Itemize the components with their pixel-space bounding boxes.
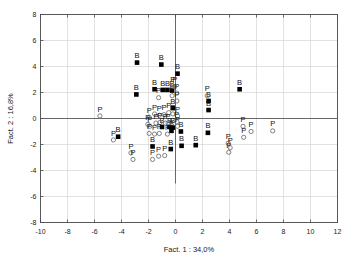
y-axis-tick-label: -2 — [30, 141, 36, 148]
y-axis-tick-label: 6 — [33, 37, 37, 44]
data-point-label: B — [116, 125, 121, 134]
data-point-label: P — [240, 115, 245, 124]
data-point-label: P — [147, 122, 152, 131]
x-axis-tick-label: -2 — [145, 228, 151, 235]
data-point-label: B — [205, 121, 210, 130]
marker-filled-square — [237, 87, 242, 92]
data-point[interactable]: B — [205, 121, 210, 135]
data-point-label: B — [179, 134, 184, 143]
data-point[interactable]: B — [116, 125, 121, 139]
data-point-label: P — [162, 144, 167, 153]
y-axis-tick-label: -6 — [30, 193, 36, 200]
x-axis-tick-label: 6 — [255, 228, 259, 235]
x-axis-tick-label: -4 — [118, 228, 124, 235]
data-point[interactable]: B — [159, 53, 164, 67]
y-axis-title: Fact. 2 : 16,8% — [6, 93, 15, 144]
y-axis-tick-label: -4 — [30, 167, 36, 174]
data-point-label: P — [150, 148, 155, 157]
data-point-label: P — [156, 145, 161, 154]
data-point-label: P — [166, 112, 171, 121]
data-point[interactable]: B — [206, 99, 211, 113]
data-point-label: P — [175, 115, 180, 124]
x-axis-tick-label: 12 — [334, 228, 342, 235]
data-point-label: B — [168, 138, 173, 147]
data-point-label: P — [205, 84, 210, 93]
data-point-label: P — [241, 126, 246, 135]
x-axis-tick-label: -10 — [35, 228, 45, 235]
y-axis-tick-label: 4 — [33, 63, 37, 70]
marker-filled-square — [116, 134, 121, 139]
x-axis-title: Fact. 1 : 34,0% — [164, 245, 215, 254]
data-point-label: P — [270, 119, 275, 128]
marker-filled-square — [134, 92, 139, 97]
data-point-label: P — [156, 86, 161, 95]
data-point-label: P — [97, 105, 102, 114]
x-axis-tick-label: 2 — [201, 228, 205, 235]
data-point[interactable]: B — [175, 62, 180, 76]
marker-filled-square — [206, 108, 211, 113]
data-point[interactable]: B — [179, 134, 184, 148]
y-axis-tick-label: -8 — [30, 219, 36, 226]
data-point-label: B — [134, 83, 139, 92]
y-axis-tick-label: 8 — [33, 11, 37, 18]
marker-filled-square — [179, 144, 184, 149]
x-axis-tick-label: 4 — [228, 228, 232, 235]
x-axis-tick-label: 10 — [307, 228, 315, 235]
data-point-label: B — [237, 78, 242, 87]
data-point-label: P — [157, 111, 162, 120]
marker-filled-square — [168, 147, 173, 152]
data-point-label: P — [130, 148, 135, 157]
data-point-label: B — [175, 62, 180, 71]
x-axis-tick-label: 8 — [282, 228, 286, 235]
x-axis-tick-label: 0 — [174, 228, 178, 235]
data-point-label: P — [174, 90, 179, 99]
data-point[interactable]: B — [135, 51, 140, 65]
x-axis-tick-label: -6 — [91, 228, 97, 235]
data-point-label: B — [193, 134, 198, 143]
marker-filled-square — [135, 60, 140, 65]
scatter-plot-figure: -10-8-6-4-2024681012-8-6-4-202468Fact. 1… — [0, 0, 351, 270]
y-axis-tick-label: 0 — [33, 115, 37, 122]
marker-filled-square — [193, 143, 198, 148]
data-point-label: P — [249, 120, 254, 129]
data-point-label: B — [159, 53, 164, 62]
marker-filled-square — [179, 129, 184, 134]
y-axis-tick-label: 2 — [33, 89, 37, 96]
data-point-label: P — [165, 123, 170, 132]
data-point[interactable]: B — [168, 138, 173, 152]
data-point-label: P — [157, 122, 162, 131]
marker-filled-square — [206, 131, 211, 136]
chart-canvas: -10-8-6-4-2024681012-8-6-4-202468Fact. 1… — [0, 0, 351, 270]
data-point[interactable]: B — [193, 134, 198, 148]
data-point-label: B — [135, 51, 140, 60]
data-point[interactable]: B — [134, 83, 139, 97]
data-point-label: P — [226, 141, 231, 150]
x-axis-tick-label: -8 — [64, 228, 70, 235]
data-point[interactable]: B — [150, 135, 155, 149]
data-point-label: B — [206, 99, 211, 108]
data-point[interactable]: B — [237, 78, 242, 92]
data-point-label: P — [111, 129, 116, 138]
marker-filled-square — [159, 62, 164, 67]
